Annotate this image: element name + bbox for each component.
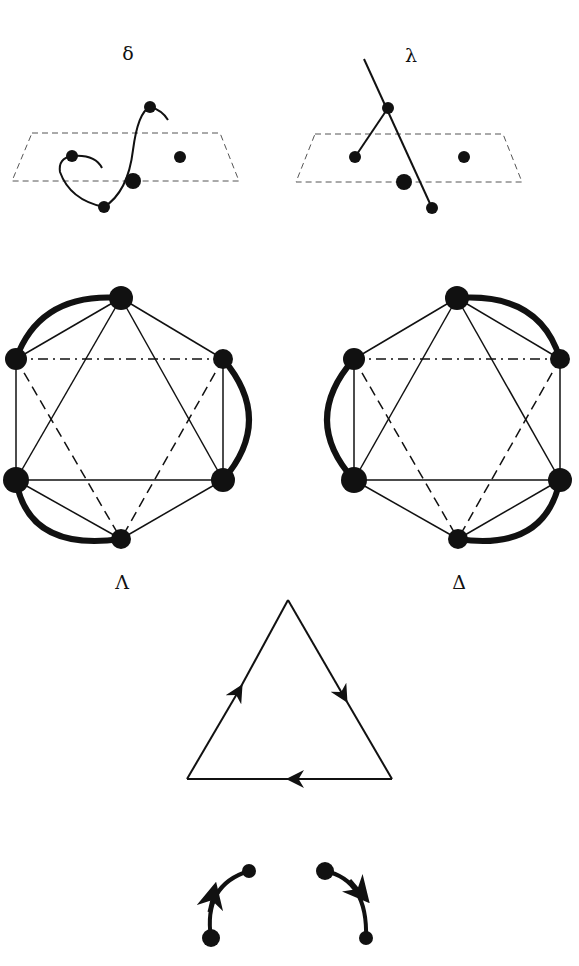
Delta-octahedron xyxy=(327,286,572,549)
stereochemistry-diagram xyxy=(0,0,579,966)
metal-atom xyxy=(396,174,412,190)
atom xyxy=(382,102,394,114)
dashed-plane xyxy=(12,133,239,181)
atom xyxy=(349,151,361,163)
atom xyxy=(66,150,78,162)
atom xyxy=(426,202,438,214)
chelate-arc xyxy=(327,359,354,480)
lambda-panel xyxy=(296,59,522,214)
atom xyxy=(458,151,470,163)
atom xyxy=(98,201,110,213)
triangle-circuit xyxy=(187,600,392,779)
delta-panel xyxy=(12,101,239,213)
label-delta-small: δ xyxy=(122,44,133,63)
chelate-arc xyxy=(223,359,249,480)
label-Lambda-capital: Λ xyxy=(115,573,129,592)
chain-curve xyxy=(104,107,150,207)
atom xyxy=(144,101,156,113)
chelate-arcs-bottom xyxy=(202,862,373,947)
Lambda-octahedron xyxy=(3,286,249,549)
label-Delta-capital: Δ xyxy=(452,573,466,592)
metal-atom xyxy=(125,173,141,189)
atom xyxy=(174,151,186,163)
label-lambda-small: λ xyxy=(405,46,417,65)
